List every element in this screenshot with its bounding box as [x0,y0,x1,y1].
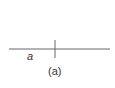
segment-label: a [27,51,33,62]
figure-caption: (a) [48,65,61,77]
number-line-diagram: a (a) [0,0,115,88]
